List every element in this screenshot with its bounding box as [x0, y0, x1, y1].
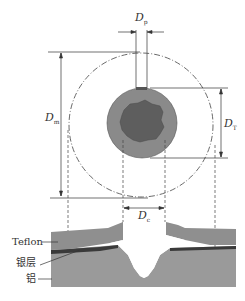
teflon-label: Teflon [12, 237, 43, 247]
dc-main: D [138, 209, 147, 222]
dm-sub: m [54, 118, 60, 125]
aluminum-label: 铝 [26, 274, 36, 284]
dt-main: D [224, 117, 233, 130]
diagram-canvas [0, 0, 245, 301]
dm-label: Dm [45, 112, 60, 125]
dc-label: Dc [138, 210, 150, 223]
dt-sub: T [233, 124, 237, 131]
dp-main: D [135, 11, 144, 24]
dt-label: DT [224, 118, 237, 131]
dm-main: D [45, 111, 54, 124]
dp-label: Dp [135, 12, 148, 25]
silver-layer-label: 银层 [16, 258, 36, 268]
probe-stub [136, 87, 147, 90]
dp-sub: p [144, 18, 148, 25]
dc-sub: c [147, 216, 150, 223]
